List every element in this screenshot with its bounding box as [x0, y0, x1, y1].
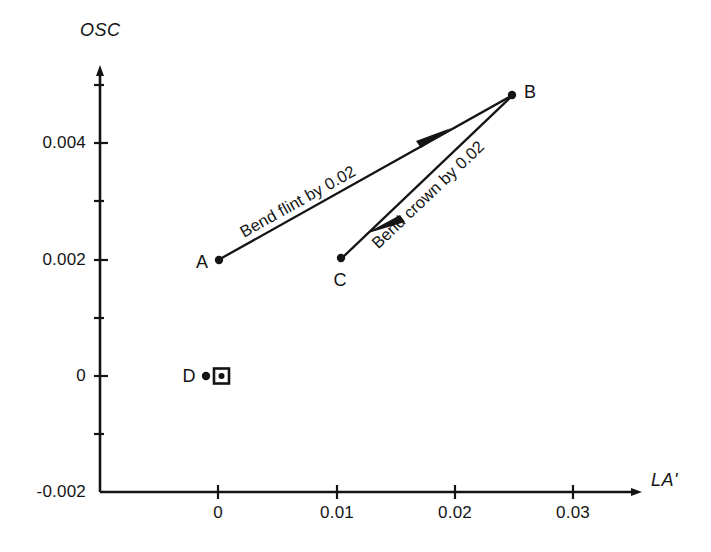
x-tick-label-0: 0: [213, 503, 223, 523]
y-tick-label-0002: 0.002: [10, 250, 86, 270]
y-tick-label-neg0002: -0.002: [10, 482, 86, 502]
point-label-D: D: [183, 366, 196, 387]
point-label-C: C: [334, 270, 347, 291]
plot-canvas: [0, 0, 711, 552]
point-marker-C: [337, 254, 345, 262]
y-tick-label-0004: 0.004: [10, 133, 86, 153]
point-label-B: B: [524, 82, 536, 103]
y-axis-title: OSC: [80, 20, 121, 41]
x-tick-label-002: 0.02: [438, 503, 472, 523]
y-tick-label-0: 0: [10, 366, 86, 386]
x-tick-label-001: 0.01: [320, 503, 354, 523]
x-tick-label-003: 0.03: [556, 503, 590, 523]
chart-figure: 0.004 0.002 0 -0.002 0 0.01 0.02 0.03 OS…: [0, 0, 711, 552]
point-marker-D-dot: [202, 372, 210, 380]
point-label-A: A: [196, 252, 208, 273]
point-marker-D-boxed-dot: [214, 369, 229, 384]
point-marker-B: [508, 91, 516, 99]
point-marker-A: [215, 256, 223, 264]
x-axis-title: LA': [651, 470, 678, 491]
